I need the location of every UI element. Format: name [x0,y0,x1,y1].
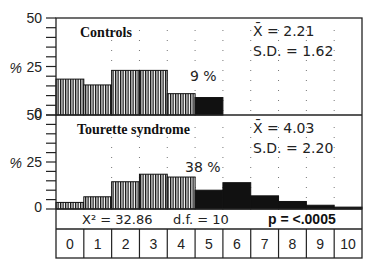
bar [195,98,223,115]
x-category: 8 [289,236,297,252]
bar [56,202,84,209]
bar [167,94,195,115]
bar [195,190,223,209]
x-category: 6 [233,236,241,252]
ytick-0: 0 [34,199,42,215]
panel-title: Tourette syndrome [77,122,190,137]
x-category: 5 [205,236,213,252]
bar [139,70,167,115]
x-category: 1 [94,236,102,252]
x-category: 4 [177,236,185,252]
bar [112,182,140,209]
mean-label: X̄ = 2.21 [253,22,314,39]
ylabel: % [10,155,22,171]
x-category: 10 [340,236,356,252]
x-category: 9 [316,236,324,252]
ytick-25: 25 [26,59,42,75]
mean-label: X̄ = 4.03 [253,119,314,136]
bar [84,197,112,209]
bar [279,201,307,209]
bar [56,79,84,115]
ylabel: % [10,60,22,76]
df-text: d.f. = 10 [173,212,229,227]
bar [139,174,167,209]
histogram-chart: 5025%0Controls9 %X̄ = 2.21S.D. = 1.62502… [0,0,373,270]
bar [223,183,251,209]
x-category: 7 [261,236,269,252]
p-text: p = <.0005 [268,211,336,227]
panel-title: Controls [80,25,132,40]
bar [251,196,279,209]
x-category: 3 [149,236,157,252]
percent-annotation: 38 % [185,159,221,175]
x-category: 0 [66,236,74,252]
ytick-50: 50 [26,107,42,123]
percent-annotation: 9 % [190,68,217,84]
bar [84,85,112,115]
x-category: 2 [122,236,130,252]
ytick-50: 50 [26,10,42,26]
bar [167,177,195,209]
chi-square-text: X² = 32.86 [82,212,153,227]
ytick-25: 25 [26,154,42,170]
bar [112,70,140,115]
sd-label: S.D. = 1.62 [253,43,333,59]
sd-label: S.D. = 2.20 [253,140,333,156]
